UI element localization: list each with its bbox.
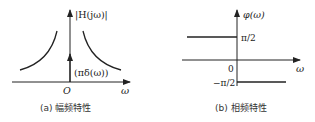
- x-label-a: ω: [121, 85, 129, 96]
- right-curve: [83, 31, 121, 70]
- left-curve: [20, 31, 57, 70]
- diagram-canvas: |H(jω)| (πδ(ω)) O ω (a) 幅频特性 φ(ω) π/2 0 …: [0, 0, 315, 122]
- caption-b: (b) 相频特性: [215, 102, 267, 113]
- origin-label-a: O: [63, 85, 71, 96]
- origin-label-b: 0: [228, 64, 234, 74]
- caption-a: (a) 幅频特性: [40, 102, 91, 113]
- upper-level-label: π/2: [241, 33, 256, 43]
- phase-plot: φ(ω) π/2 0 −π/2 ω (b) 相频特性: [182, 9, 304, 113]
- y-label-a: |H(jω)|: [75, 9, 108, 21]
- x-label-b: ω: [296, 63, 304, 74]
- lower-level-label: −π/2: [213, 78, 235, 88]
- y-label-b: φ(ω): [243, 9, 265, 20]
- magnitude-plot: |H(jω)| (πδ(ω)) O ω (a) 幅频特性: [12, 9, 130, 113]
- impulse-label: (πδ(ω)): [74, 67, 109, 78]
